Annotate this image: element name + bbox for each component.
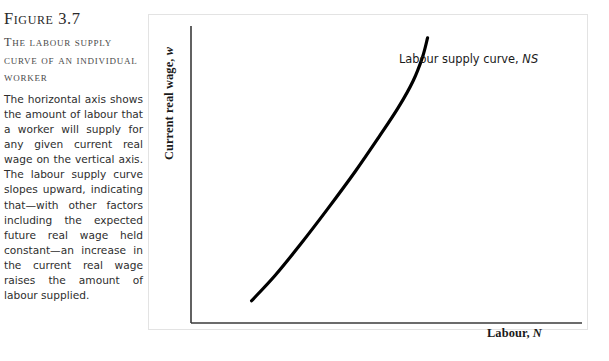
y-axis-label: Current real wage, w: [161, 27, 179, 179]
caption-column: Figure 3.7 The labour supply curve of an…: [4, 10, 144, 303]
curve-annotation-text: Labour supply curve,: [399, 52, 522, 66]
labour-supply-curve: [252, 38, 428, 301]
x-axis-label-symbol: N: [533, 326, 542, 340]
figure-number: Figure 3.7: [4, 10, 144, 27]
x-axis-label: Labour, N: [487, 326, 542, 341]
figure-page: Figure 3.7 The labour supply curve of an…: [0, 0, 609, 361]
y-axis-label-symbol: w: [163, 46, 177, 54]
figure-caption-text: The horizontal axis shows the amount of …: [4, 92, 143, 302]
y-axis-label-text: Current real wage,: [163, 55, 177, 160]
curve-annotation-symbol: NS: [522, 52, 538, 66]
figure-subtitle: The labour supply curve of an individual…: [4, 34, 146, 86]
curve-annotation: Labour supply curve, NS: [399, 52, 538, 66]
x-axis-label-text: Labour,: [487, 326, 533, 340]
